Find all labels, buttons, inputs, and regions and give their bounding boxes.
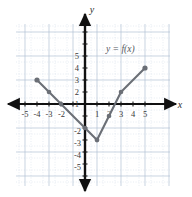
x-tick-label: -4 [33, 109, 41, 119]
x-tick-label: 1 [95, 109, 99, 119]
graph-figure: -5 -4 -3 -2 1 2 3 4 5 5 4 3 2 1 -2 -3 -4… [0, 0, 192, 197]
data-point [34, 77, 39, 82]
y-tick-label: -5 [74, 162, 81, 172]
x-tick-label: 4 [131, 109, 136, 119]
x-tick-label: -2 [58, 109, 65, 119]
x-tick-label: 5 [143, 109, 147, 119]
function-annotation-label: y = f(x) [105, 44, 135, 55]
data-point [119, 90, 124, 95]
y-tick-label: 5 [75, 51, 79, 61]
y-tick-label: 2 [75, 87, 79, 97]
y-tick-label: -4 [74, 150, 82, 160]
data-point [59, 102, 64, 107]
x-tick-label: -3 [45, 109, 52, 119]
y-tick-label: -3 [74, 138, 81, 148]
coordinate-plane-svg: -5 -4 -3 -2 1 2 3 4 5 5 4 3 2 1 -2 -3 -4… [0, 0, 192, 197]
data-point [95, 138, 100, 143]
x-tick-label: -5 [21, 109, 28, 119]
data-point [83, 126, 88, 131]
data-point [107, 114, 112, 119]
y-axis-label: y [89, 4, 95, 15]
data-point [47, 90, 52, 95]
y-tick-label: 1 [75, 99, 79, 109]
y-tick-label: 3 [75, 75, 79, 85]
y-tick-label: -2 [74, 126, 81, 136]
data-point [142, 65, 147, 70]
x-tick-label: 3 [119, 109, 123, 119]
x-axis-label: x [177, 99, 183, 110]
y-tick-labels: 5 4 3 2 1 -2 -3 -4 -5 [74, 51, 82, 172]
